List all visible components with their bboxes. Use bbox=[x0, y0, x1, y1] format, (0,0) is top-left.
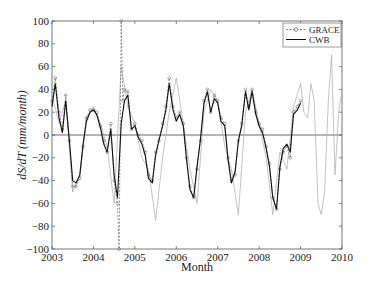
x-tick-label: 2010 bbox=[331, 251, 354, 263]
y-tick-label: 100 bbox=[33, 15, 50, 27]
y-tick-label: 80 bbox=[38, 37, 50, 49]
circle-marker-icon bbox=[294, 28, 298, 32]
x-tick-label: 2005 bbox=[124, 251, 147, 263]
x-axis-title: Month bbox=[181, 260, 213, 274]
legend: GRACE CWB bbox=[283, 23, 341, 47]
chart: 100806040200−20−40−60−80−100 20032004200… bbox=[0, 0, 369, 290]
series-cwb bbox=[52, 84, 301, 209]
y-axis-title: dS/dT (mm/month) bbox=[15, 90, 29, 179]
y-tick-label: 0 bbox=[44, 129, 50, 141]
series-model bbox=[52, 55, 342, 220]
x-tick-label: 2008 bbox=[248, 251, 271, 263]
svg-text:CWB: CWB bbox=[309, 35, 330, 45]
y-tick-label: 60 bbox=[38, 60, 50, 72]
y-tick-label: 20 bbox=[38, 106, 50, 118]
x-tick-label: 2004 bbox=[82, 251, 105, 263]
y-tick-label: −40 bbox=[32, 174, 50, 186]
y-tick-label: 40 bbox=[38, 83, 50, 95]
x-tick-label: 2009 bbox=[290, 251, 313, 263]
x-axis-ticks: 20032004200520062007200820092010 bbox=[41, 21, 354, 263]
y-tick-label: −80 bbox=[32, 220, 50, 232]
y-tick-label: −60 bbox=[32, 197, 50, 209]
svg-text:GRACE: GRACE bbox=[309, 25, 340, 35]
x-tick-label: 2003 bbox=[41, 251, 64, 263]
y-tick-label: −20 bbox=[32, 151, 50, 163]
